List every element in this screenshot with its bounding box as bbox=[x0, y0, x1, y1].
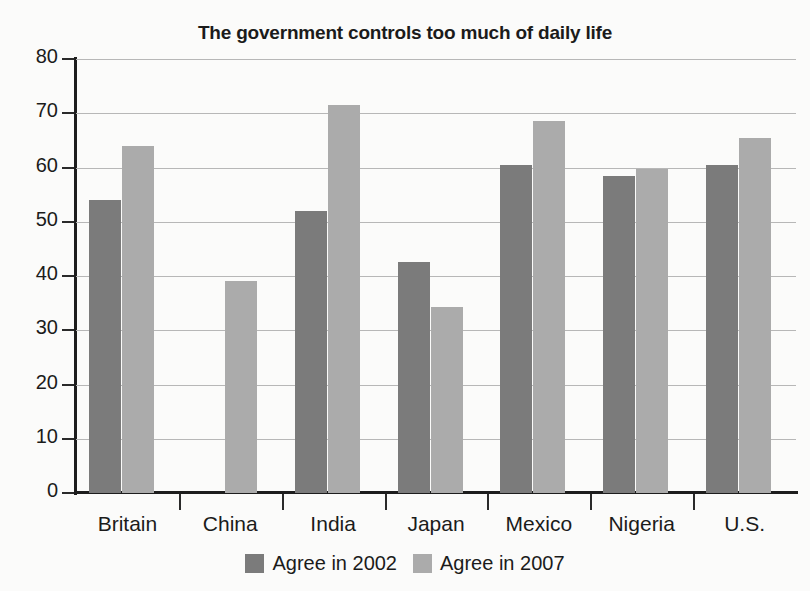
y-axis-tick-label: 70 bbox=[0, 99, 58, 122]
bar-us-2007 bbox=[739, 138, 771, 493]
gridline bbox=[76, 59, 796, 60]
legend-swatch-icon bbox=[245, 554, 264, 573]
x-axis-tick-mark bbox=[282, 494, 284, 510]
bar-britain-2007 bbox=[122, 146, 154, 493]
x-axis-tick-mark bbox=[693, 494, 695, 510]
x-axis-label-nigeria: Nigeria bbox=[608, 512, 675, 536]
legend-item[interactable]: Agree in 2007 bbox=[413, 552, 565, 575]
gridline bbox=[76, 168, 796, 169]
x-axis-label-mexico: Mexico bbox=[506, 512, 573, 536]
chart-legend: Agree in 2002Agree in 2007 bbox=[0, 552, 810, 575]
plot-area bbox=[76, 59, 796, 493]
bar-us-2002 bbox=[706, 165, 738, 493]
bar-nigeria-2007 bbox=[636, 169, 668, 493]
bar-japan-2007 bbox=[431, 307, 463, 493]
bar-china-2007 bbox=[225, 281, 257, 493]
x-axis-tick-mark bbox=[487, 494, 489, 510]
y-axis-tick-label: 30 bbox=[0, 316, 58, 339]
legend-label: Agree in 2002 bbox=[272, 552, 397, 575]
bar-india-2007 bbox=[328, 105, 360, 493]
y-axis-tick-label: 50 bbox=[0, 208, 58, 231]
gridline bbox=[76, 222, 796, 223]
bar-mexico-2002 bbox=[500, 165, 532, 493]
legend-item[interactable]: Agree in 2002 bbox=[245, 552, 397, 575]
x-axis-label-us: U.S. bbox=[724, 512, 765, 536]
y-axis-tick-label: 0 bbox=[0, 479, 58, 502]
y-axis-tick-label: 10 bbox=[0, 425, 58, 448]
y-axis-tick-label: 60 bbox=[0, 154, 58, 177]
x-axis-tick-mark bbox=[179, 494, 181, 510]
legend-label: Agree in 2007 bbox=[440, 552, 565, 575]
chart-title: The government controls too much of dail… bbox=[0, 22, 810, 44]
x-axis-label-china: China bbox=[203, 512, 258, 536]
legend-swatch-icon bbox=[413, 554, 432, 573]
bar-nigeria-2002 bbox=[603, 176, 635, 493]
gridline bbox=[76, 276, 796, 277]
x-axis-label-india: India bbox=[310, 512, 356, 536]
y-axis-tick-label: 20 bbox=[0, 371, 58, 394]
y-axis-tick-label: 80 bbox=[0, 45, 58, 68]
gridline bbox=[76, 113, 796, 114]
bar-india-2002 bbox=[295, 211, 327, 493]
x-axis-label-britain: Britain bbox=[98, 512, 158, 536]
x-axis-tick-mark bbox=[385, 494, 387, 510]
x-axis-label-japan: Japan bbox=[407, 512, 464, 536]
bar-britain-2002 bbox=[89, 200, 121, 493]
bar-japan-2002 bbox=[398, 262, 430, 493]
x-axis-tick-mark bbox=[590, 494, 592, 510]
bar-chart: The government controls too much of dail… bbox=[0, 0, 810, 591]
y-axis-tick-label: 40 bbox=[0, 262, 58, 285]
bar-mexico-2007 bbox=[533, 121, 565, 493]
